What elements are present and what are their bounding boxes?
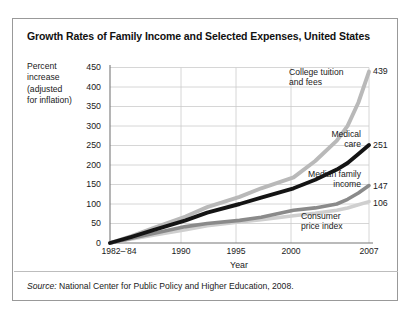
value-label-medical: 251 <box>373 141 388 150</box>
source-divider <box>14 271 398 272</box>
xtick-1982-84: 1982–'84 <box>88 247 150 256</box>
value-label-income: 147 <box>373 182 388 191</box>
annotation-college-tuition-and-fees: College tuition and fees <box>289 67 343 87</box>
x-axis-title: Year <box>199 260 279 270</box>
plot-area: 450 400 350 300 250 200 150 100 50 0 <box>13 19 399 302</box>
annotation-income-line-1: Median family <box>283 169 361 179</box>
annotation-medical-line-2: care <box>299 139 361 149</box>
source-label: Source: <box>27 281 57 291</box>
annotation-medical-care: Medical care <box>299 129 361 149</box>
annotation-cpi-line-2: price index <box>301 221 343 231</box>
annotation-cpi-line-1: Consumer <box>301 211 343 221</box>
value-label-cpi: 106 <box>373 199 388 208</box>
annotation-income-line-2: income <box>283 179 361 189</box>
xtick-1995: 1995 <box>216 247 256 256</box>
xtick-2007: 2007 <box>349 247 389 256</box>
value-label-tuition: 439 <box>373 67 388 76</box>
source-value: National Center for Public Policy and Hi… <box>57 281 294 291</box>
xtick-2000: 2000 <box>271 247 311 256</box>
annotation-tuition-line-2: and fees <box>289 77 343 87</box>
annotation-median-family-income: Median family income <box>283 169 361 189</box>
annotation-medical-line-1: Medical <box>299 129 361 139</box>
figure-frame: Growth Rates of Family Income and Select… <box>12 18 398 301</box>
source-note: Source: National Center for Public Polic… <box>27 281 294 291</box>
annotation-tuition-line-1: College tuition <box>289 67 343 77</box>
annotation-consumer-price-index: Consumer price index <box>301 211 343 231</box>
xtick-1990: 1990 <box>161 247 201 256</box>
